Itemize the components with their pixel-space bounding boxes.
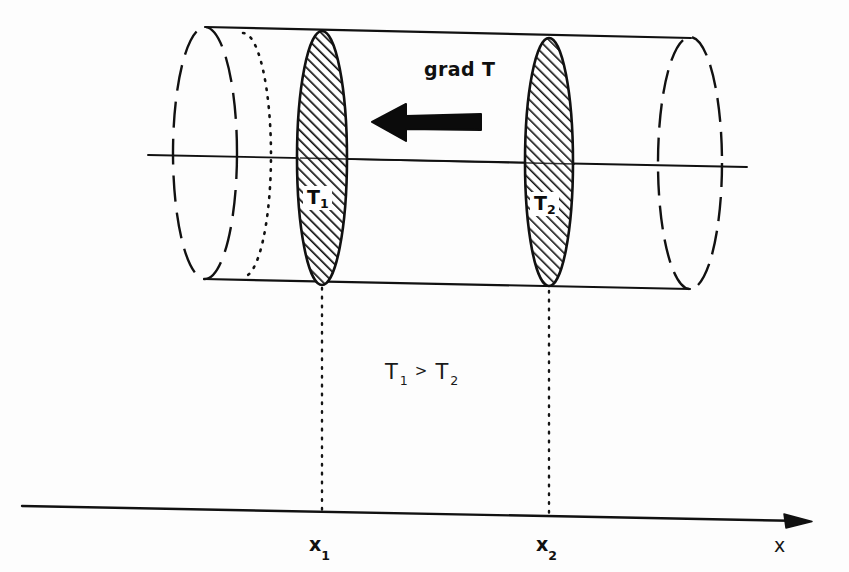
- axis-tick-label-x1: x1: [309, 533, 330, 559]
- axis-tick-x2-subscript: 2: [548, 548, 557, 563]
- gradient-arrow: [372, 104, 481, 141]
- gradient-label: grad T: [424, 58, 495, 80]
- figure-canvas: [0, 0, 849, 572]
- section-label-t1: T1: [303, 186, 332, 210]
- inequality-right-subscript: 2: [450, 373, 459, 388]
- cylinder-left-cap: [173, 27, 237, 279]
- section-label-t1-base: T: [307, 186, 320, 208]
- temperature-inequality: T1>T2: [385, 360, 458, 384]
- cylinder-left-cap-hidden-edge: [243, 33, 271, 277]
- axis-tick-label-x2: x2: [536, 533, 557, 559]
- axis-tick-x1-subscript: 1: [321, 548, 330, 563]
- inequality-left-subscript: 1: [400, 373, 409, 388]
- inequality-operator: >: [415, 362, 429, 380]
- axis-tick-x2-base: x: [536, 533, 548, 555]
- axis-tick-x1-base: x: [309, 533, 321, 555]
- cylinder-right-cap: [658, 37, 722, 289]
- section-label-t2-subscript: 2: [547, 202, 556, 217]
- inequality-right-base: T: [435, 360, 449, 384]
- inequality-left-base: T: [385, 360, 399, 384]
- x-axis: [22, 506, 812, 528]
- cross-section-disc-t2: [525, 38, 573, 286]
- section-label-t2: T2: [530, 192, 559, 216]
- section-label-t1-subscript: 1: [320, 196, 329, 211]
- cylinder-top-edge: [205, 27, 691, 38]
- cylinder-bottom-edge: [204, 279, 690, 289]
- axis-name-label: x: [774, 534, 785, 556]
- heat-conduction-figure: grad T T1 T2 T1>T2 x1 x2 x: [0, 0, 849, 572]
- x-axis-line: [22, 506, 805, 521]
- section-label-t2-base: T: [534, 192, 547, 214]
- x-axis-arrowhead: [784, 514, 812, 528]
